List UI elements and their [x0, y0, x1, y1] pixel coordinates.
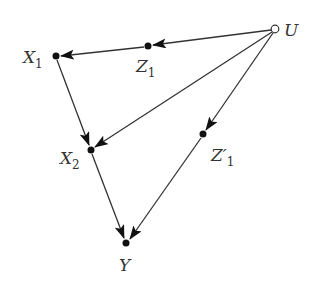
edge-u-to-z1prime	[206, 33, 273, 130]
edge-x2-to-y	[92, 154, 124, 238]
label-u: U	[284, 20, 299, 40]
node-z1	[145, 43, 152, 50]
label-x1: X1	[21, 47, 43, 71]
node-z1prime	[200, 131, 207, 138]
node-x2	[88, 147, 95, 154]
node-y	[123, 240, 130, 247]
node-x1	[53, 53, 60, 60]
edge-u-to-z1	[153, 30, 271, 45]
edge-z1prime-to-y	[130, 138, 201, 239]
label-y: Y	[119, 255, 132, 275]
edge-x1-to-x2	[57, 60, 89, 145]
label-z1prime: Z′1	[210, 145, 234, 169]
label-z1: Z1	[135, 56, 155, 80]
causal-diagram: X1 Z1 U X2 Z′1 Y	[0, 0, 319, 294]
node-u	[271, 25, 279, 33]
edge-z1-to-x1	[61, 47, 144, 56]
label-x2: X2	[58, 148, 80, 172]
